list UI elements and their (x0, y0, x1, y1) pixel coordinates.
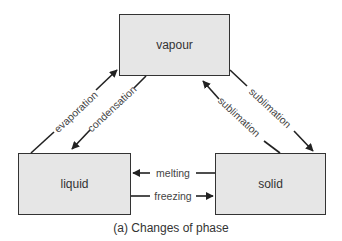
melting-arrow: melting (133, 167, 215, 179)
sublimation-up-arrow: sublimation (203, 81, 280, 153)
figure-caption: (a) Changes of phase (0, 221, 342, 235)
freezing-arrow: freezing (131, 190, 213, 202)
freezing-label: freezing (154, 190, 192, 202)
arrows-layer: evaporation condensation sublimation sub… (0, 0, 342, 241)
melting-label: melting (156, 167, 190, 179)
